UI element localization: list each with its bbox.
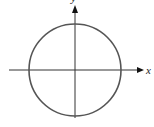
diagram-canvas: x y	[0, 0, 154, 127]
x-axis-arrow-icon	[137, 67, 144, 73]
y-axis-arrow-icon	[72, 5, 78, 13]
y-axis-label: y	[70, 0, 76, 4]
y-axis	[72, 5, 78, 118]
x-axis-label: x	[145, 64, 151, 76]
